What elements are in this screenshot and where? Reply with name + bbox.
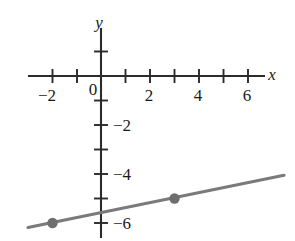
- x-tick-label-0: 0: [89, 80, 98, 99]
- plotted-line: [28, 175, 284, 227]
- data-point-2: [169, 193, 179, 203]
- x-tick-label-6: 6: [243, 86, 252, 105]
- y-tick-label--4: −4: [113, 165, 132, 184]
- x-tick-label-4: 4: [194, 86, 203, 105]
- data-point-1: [47, 218, 57, 228]
- x-tick-label-2: 2: [145, 86, 154, 105]
- y-tick-label--6: −6: [113, 214, 131, 233]
- x-tick-label--2: −2: [38, 86, 56, 105]
- coordinate-plane: x y −2 0 2 4 6 −2 −4 −6: [0, 0, 295, 241]
- graph-figure: x y −2 0 2 4 6 −2 −4 −6: [0, 0, 295, 241]
- y-tick-label--2: −2: [113, 116, 131, 135]
- y-axis-label: y: [93, 13, 103, 32]
- x-axis-label: x: [267, 65, 276, 84]
